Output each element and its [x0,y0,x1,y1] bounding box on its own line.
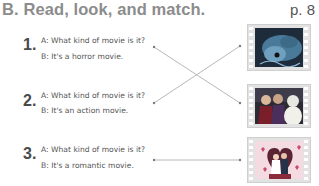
romance-movie-image [255,141,303,179]
match-dot [239,159,241,161]
match-dot [239,102,241,104]
film-holes-icon [249,27,254,68]
film-holes-icon [304,27,309,68]
picture-1-film-frame [247,24,311,71]
film-holes-icon [304,87,309,125]
match-dot [239,45,241,47]
monster-movie-image [255,28,303,67]
action-movie-image [255,88,303,124]
match-dot [153,102,155,104]
picture-2-film-frame [247,84,311,128]
film-holes-icon [249,87,254,125]
match-dot [153,159,155,161]
film-holes-icon [304,140,309,180]
match-dot [153,46,155,48]
picture-3-film-frame [247,137,311,183]
film-holes-icon [249,140,254,180]
